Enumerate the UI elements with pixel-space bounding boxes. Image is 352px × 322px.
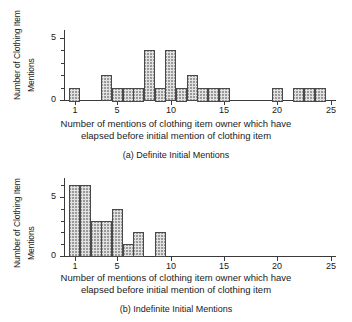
y-tick-label: 0 bbox=[42, 250, 56, 260]
histogram-bar bbox=[112, 209, 123, 257]
x-tick-label: 20 bbox=[267, 261, 287, 271]
y-tick-label: 5 bbox=[42, 32, 56, 42]
y-axis-title-line1-b: Number of Clothing Item bbox=[12, 178, 22, 268]
x-tick-label: 15 bbox=[214, 261, 234, 271]
y-tick-minor bbox=[61, 221, 65, 222]
x-tick-label: 25 bbox=[321, 105, 341, 115]
x-tick-label: 1 bbox=[65, 105, 85, 115]
x-tick-label: 5 bbox=[107, 261, 127, 271]
histogram-bar bbox=[208, 88, 219, 102]
histogram-bar bbox=[176, 88, 187, 102]
x-axis-caption-line2-a: elapsed before initial mention of clothi… bbox=[0, 130, 352, 142]
figure-panel-b: Number of Clothing Item Mentions 05 1510… bbox=[0, 168, 352, 322]
y-tick-minor bbox=[61, 209, 65, 210]
histogram-bar bbox=[293, 88, 304, 102]
x-axis-caption-line1-b: Number of mentions of clothing item owne… bbox=[0, 272, 352, 284]
histogram-bar bbox=[112, 88, 123, 102]
histogram-bar bbox=[133, 88, 144, 102]
histogram-bar bbox=[80, 185, 91, 257]
histogram-bar bbox=[155, 232, 166, 257]
histogram-bar bbox=[101, 221, 112, 257]
histogram-bar bbox=[69, 185, 80, 257]
histogram-bar bbox=[133, 232, 144, 257]
histogram-bar bbox=[144, 50, 155, 101]
y-tick-minor bbox=[61, 75, 65, 76]
y-tick-minor bbox=[61, 88, 65, 89]
y-axis-title-line2-b: Mentions bbox=[26, 226, 36, 260]
histogram-bar bbox=[219, 88, 230, 102]
y-tick-minor bbox=[61, 232, 65, 233]
y-tick-minor bbox=[61, 63, 65, 64]
figure-panel-a: Number of Clothing Item Mentions 05 1510… bbox=[0, 0, 352, 168]
y-tick-major bbox=[60, 256, 65, 257]
x-axis-caption-line2-b: elapsed before initial mention of clothi… bbox=[0, 284, 352, 296]
panel-caption-a: (a) Definite Initial Mentions bbox=[0, 150, 352, 160]
histogram-bar bbox=[101, 75, 112, 101]
histogram-bar bbox=[165, 50, 176, 101]
histogram-bar bbox=[304, 88, 315, 102]
y-tick-minor bbox=[61, 50, 65, 51]
y-axis-title-a: Number of Clothing Item Mentions bbox=[0, 0, 46, 100]
y-tick-major bbox=[60, 197, 65, 198]
histogram-bar bbox=[272, 88, 283, 102]
y-tick-major bbox=[60, 38, 65, 39]
x-tick-label: 10 bbox=[161, 105, 181, 115]
y-axis-title-line2-a: Mentions bbox=[26, 58, 36, 92]
panel-caption-b: (b) Indefinite Initial Mentions bbox=[0, 304, 352, 314]
y-tick-label: 0 bbox=[42, 94, 56, 104]
histogram-bar bbox=[197, 88, 208, 102]
x-axis-caption-line1-a: Number of mentions of clothing item owne… bbox=[0, 118, 352, 130]
histogram-bar bbox=[315, 88, 326, 102]
histogram-b: Number of Clothing Item Mentions 05 1510… bbox=[0, 168, 352, 272]
x-axis-caption-a: Number of mentions of clothing item owne… bbox=[0, 118, 352, 142]
y-tick-minor bbox=[61, 185, 65, 186]
x-tick-label: 10 bbox=[161, 261, 181, 271]
y-tick-minor bbox=[61, 244, 65, 245]
y-tick-label: 5 bbox=[42, 191, 56, 201]
y-axis-title-b: Number of Clothing Item Mentions bbox=[0, 168, 46, 268]
x-tick-label: 15 bbox=[214, 105, 234, 115]
histogram-bar bbox=[69, 88, 80, 102]
x-tick-label: 25 bbox=[321, 261, 341, 271]
x-axis-caption-b: Number of mentions of clothing item owne… bbox=[0, 272, 352, 296]
x-tick-label: 20 bbox=[267, 105, 287, 115]
y-axis-title-line1-a: Number of Clothing Item bbox=[12, 10, 22, 100]
x-tick-label: 5 bbox=[107, 105, 127, 115]
y-tick-major bbox=[60, 100, 65, 101]
histogram-a: Number of Clothing Item Mentions 05 1510… bbox=[0, 0, 352, 118]
y-axis-line-a bbox=[64, 30, 65, 100]
x-tick-label: 1 bbox=[65, 261, 85, 271]
